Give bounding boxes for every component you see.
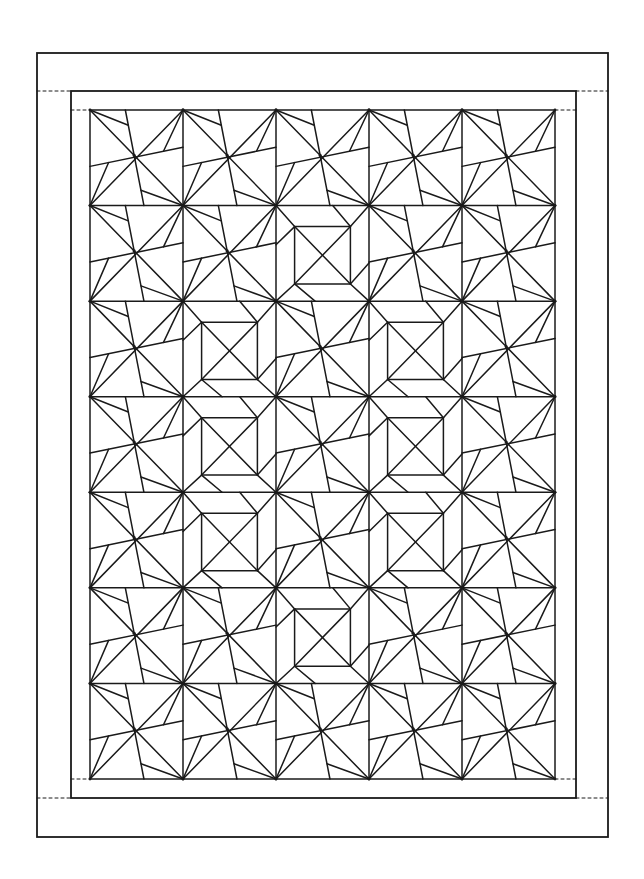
pinwheel-center-dot (226, 249, 229, 252)
pinwheel-arm (276, 736, 295, 779)
block-corner-dot (368, 778, 371, 781)
block-corner-dot (461, 395, 464, 398)
pinwheel-arm (349, 110, 369, 151)
block-corner-dot (368, 395, 371, 398)
pinwheel-block (461, 682, 557, 780)
pinwheel-arm (420, 764, 462, 779)
square-arm (388, 475, 408, 492)
block-corner-dot (368, 682, 371, 685)
pinwheel-arm (327, 764, 369, 779)
square-arm (426, 397, 444, 418)
corner-connector (257, 475, 276, 492)
square-arm (257, 454, 276, 475)
square-arm (443, 358, 462, 379)
square-in-square-block (368, 300, 464, 398)
block-corner-dot (368, 300, 371, 303)
corner-connector (443, 492, 462, 513)
block-corner-dot (554, 395, 557, 398)
corner-connector (257, 380, 276, 397)
pinwheel-block (89, 204, 185, 302)
corner-connector (350, 588, 369, 609)
pinwheel-arm (535, 397, 555, 438)
pinwheel-arm (369, 640, 388, 683)
block-corner-dot (368, 204, 371, 207)
square-in-square-block (182, 300, 278, 398)
square-in-square-block (275, 586, 371, 684)
pinwheel-arm (276, 683, 314, 698)
pinwheel-block (368, 204, 464, 302)
pinwheel-block (368, 109, 464, 207)
square-arm (240, 492, 258, 513)
block-corner-dot (368, 586, 371, 589)
block-corner-dot (275, 682, 278, 685)
pinwheel-arm (90, 163, 109, 206)
pinwheel-arm (513, 381, 555, 396)
block-corner-dot (368, 109, 371, 112)
pinwheel-arm (369, 163, 388, 206)
block-corner-dot (275, 109, 278, 112)
corner-connector (257, 571, 276, 588)
pinwheel-center-dot (505, 249, 508, 252)
square-arm (257, 550, 276, 571)
pinwheel-arm (462, 397, 500, 412)
pinwheel-center-dot (505, 441, 508, 444)
pinwheel-arm (183, 683, 221, 698)
pinwheel-arm (369, 736, 388, 779)
pinwheel-arm (513, 477, 555, 492)
pinwheel-arm (462, 545, 481, 588)
block-corner-dot (461, 109, 464, 112)
square-arm (426, 492, 444, 513)
pinwheel-block (461, 109, 557, 207)
pinwheel-arm (234, 190, 276, 205)
pinwheel-arm (90, 736, 109, 779)
block-corner-dot (554, 682, 557, 685)
square-in-square-block (368, 395, 464, 493)
pinwheel-arm (163, 683, 183, 724)
corner-connector (183, 475, 202, 492)
square-arm (183, 322, 202, 340)
pinwheel-block (89, 395, 185, 493)
pinwheel-arm (535, 110, 555, 151)
block-corner-dot (182, 204, 185, 207)
pinwheel-arm (462, 354, 481, 397)
pinwheel-center-dot (505, 632, 508, 635)
pinwheel-center-dot (226, 727, 229, 730)
pinwheel-arm (535, 588, 555, 629)
quilt-blocks (89, 109, 557, 781)
block-corner-dot (89, 586, 92, 589)
square-arm (295, 666, 315, 683)
corner-connector (369, 397, 388, 418)
corner-connector (183, 301, 202, 322)
pinwheel-arm (276, 492, 314, 507)
pinwheel-block (368, 682, 464, 780)
square-arm (295, 284, 315, 301)
pinwheel-arm (276, 449, 295, 492)
pinwheel-arm (141, 286, 183, 301)
pinwheel-arm (90, 397, 128, 412)
corner-connector (443, 475, 462, 492)
pinwheel-arm (234, 668, 276, 683)
pinwheel-arm (369, 683, 407, 698)
block-corner-dot (182, 491, 185, 494)
pinwheel-arm (442, 588, 462, 629)
pinwheel-center-dot (226, 632, 229, 635)
pinwheel-center-dot (319, 345, 322, 348)
pinwheel-arm (90, 588, 128, 603)
block-corner-dot (182, 778, 185, 781)
pinwheel-arm (462, 683, 500, 698)
corner-connector (276, 588, 295, 609)
corner-connector (369, 475, 388, 492)
corner-connector (183, 571, 202, 588)
corner-connector (369, 492, 388, 513)
square-arm (443, 454, 462, 475)
block-corner-dot (461, 300, 464, 303)
pinwheel-center-dot (133, 249, 136, 252)
corner-connector (183, 397, 202, 418)
pinwheel-arm (90, 640, 109, 683)
block-corner-dot (554, 586, 557, 589)
block-corner-dot (89, 778, 92, 781)
block-corner-dot (182, 682, 185, 685)
square-in-square-block (368, 491, 464, 589)
pinwheel-arm (141, 477, 183, 492)
square-arm (257, 358, 276, 379)
